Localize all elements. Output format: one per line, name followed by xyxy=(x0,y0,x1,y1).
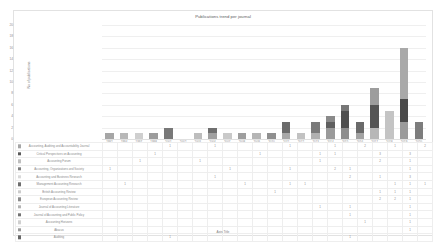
data-cell: 1 xyxy=(298,180,313,188)
data-cell xyxy=(223,196,238,204)
bar-slot[interactable] xyxy=(102,25,117,139)
data-cell: 1 xyxy=(328,143,343,151)
bar-slot[interactable] xyxy=(131,25,146,139)
data-cell xyxy=(178,196,193,204)
bar-slot[interactable] xyxy=(264,25,279,139)
bar-segment[interactable] xyxy=(341,111,350,128)
bar-slot[interactable] xyxy=(323,25,338,139)
data-cell xyxy=(298,234,313,242)
data-cell: 1 xyxy=(373,188,388,196)
table-row[interactable]: Journal of Accounting Literature111 xyxy=(16,203,433,211)
table-row[interactable]: British Accounting Review1111 xyxy=(16,188,433,196)
bar-segment[interactable] xyxy=(164,128,173,139)
data-cell xyxy=(268,165,283,173)
bar-slot[interactable] xyxy=(176,25,191,139)
bar-segment[interactable] xyxy=(282,122,291,133)
stacked-bar[interactable] xyxy=(326,116,335,139)
bar-slot[interactable] xyxy=(397,25,412,139)
bar-segment[interactable] xyxy=(326,128,335,139)
bar-slot[interactable] xyxy=(249,25,264,139)
bar-segment[interactable] xyxy=(400,48,409,99)
data-cell xyxy=(148,143,163,151)
stacked-bar[interactable] xyxy=(415,122,424,139)
bar-slot[interactable] xyxy=(367,25,382,139)
y-axis-tick: 6 xyxy=(5,103,13,107)
bar-segment[interactable] xyxy=(400,122,409,139)
table-row[interactable]: Accounting Forum11121 xyxy=(16,158,433,166)
data-cell xyxy=(208,188,223,196)
bar-slot[interactable] xyxy=(235,25,250,139)
data-cell xyxy=(358,196,373,204)
data-cell xyxy=(208,234,223,242)
bar-series-group xyxy=(102,25,426,139)
stacked-bar[interactable] xyxy=(400,48,409,139)
data-cell xyxy=(238,211,253,219)
bar-slot[interactable] xyxy=(338,25,353,139)
table-row[interactable]: Auditing11 xyxy=(16,234,433,242)
stacked-bar[interactable] xyxy=(370,88,379,139)
bar-slot[interactable] xyxy=(279,25,294,139)
chart-container: Publications trend per journal No of pub… xyxy=(13,10,433,236)
legend-swatch-icon xyxy=(18,145,21,148)
bar-segment[interactable] xyxy=(370,88,379,105)
bar-segment[interactable] xyxy=(400,99,409,122)
data-cell xyxy=(163,211,178,219)
data-table-body: Accounting, Auditing and Accountability … xyxy=(16,143,433,242)
data-cell xyxy=(208,196,223,204)
data-cell xyxy=(238,203,253,211)
table-row[interactable]: Accounting, Organizations and Society111… xyxy=(16,165,433,173)
stacked-bar[interactable] xyxy=(385,111,394,140)
bar-slot[interactable] xyxy=(117,25,132,139)
stacked-bar[interactable] xyxy=(311,122,320,139)
stacked-bar[interactable] xyxy=(356,122,365,139)
bar-slot[interactable] xyxy=(352,25,367,139)
bar-slot[interactable] xyxy=(220,25,235,139)
bar-slot[interactable] xyxy=(205,25,220,139)
bar-segment[interactable] xyxy=(370,105,379,128)
stacked-bar[interactable] xyxy=(282,122,291,139)
bar-slot[interactable] xyxy=(294,25,309,139)
data-cell xyxy=(238,143,253,151)
bar-segment[interactable] xyxy=(385,111,394,140)
bar-slot[interactable] xyxy=(308,25,323,139)
stacked-bar[interactable] xyxy=(341,105,350,139)
stacked-bar[interactable] xyxy=(208,128,217,139)
data-cell: 1 xyxy=(193,158,208,166)
data-cell xyxy=(388,165,403,173)
data-cell xyxy=(223,211,238,219)
bar-segment[interactable] xyxy=(341,128,350,139)
stacked-bar[interactable] xyxy=(164,128,173,139)
table-row[interactable]: Accounting Horizons11 xyxy=(16,218,433,226)
table-row[interactable]: Management Accounting Research1111111 xyxy=(16,180,433,188)
table-row[interactable]: Accounting, Auditing and Accountability … xyxy=(16,143,433,151)
legend-swatch-icon xyxy=(18,152,21,155)
data-cell xyxy=(343,180,358,188)
data-cell xyxy=(343,196,358,204)
data-cell xyxy=(148,203,163,211)
data-cell xyxy=(238,188,253,196)
legend-swatch-icon xyxy=(18,190,21,193)
bar-slot[interactable] xyxy=(382,25,397,139)
data-cell xyxy=(283,234,298,242)
bar-segment[interactable] xyxy=(356,122,365,133)
data-cell xyxy=(193,188,208,196)
data-cell xyxy=(373,234,388,242)
bar-segment[interactable] xyxy=(311,122,320,133)
bar-slot[interactable] xyxy=(411,25,426,139)
bar-segment[interactable] xyxy=(415,122,424,139)
table-row[interactable]: Journal of Accounting and Public Policy1… xyxy=(16,211,433,219)
table-row[interactable]: Critical Perspectives on Accounting11113… xyxy=(16,150,433,158)
bar-slot[interactable] xyxy=(161,25,176,139)
y-axis-tick: 2 xyxy=(5,126,13,130)
data-cell xyxy=(358,234,373,242)
bar-slot[interactable] xyxy=(190,25,205,139)
bar-segment[interactable] xyxy=(370,128,379,139)
table-row[interactable]: Accounting and Business Research1213 xyxy=(16,173,433,181)
bar-slot[interactable] xyxy=(146,25,161,139)
table-row[interactable]: European Accounting Review221 xyxy=(16,196,433,204)
data-cell xyxy=(313,188,328,196)
y-axis-tick: 10 xyxy=(5,80,13,84)
data-cell xyxy=(193,143,208,151)
data-cell xyxy=(163,165,178,173)
data-cell: 1 xyxy=(103,165,118,173)
